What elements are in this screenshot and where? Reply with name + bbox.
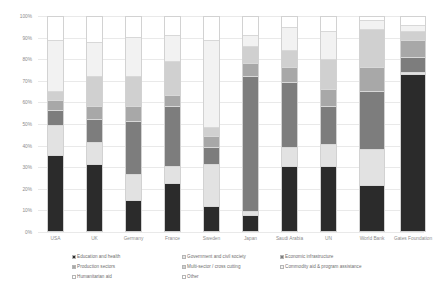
bar-segment[interactable] [48,92,63,101]
bar-segment[interactable] [360,150,384,186]
bar-segment[interactable] [204,128,219,137]
bar-segment[interactable] [360,30,384,69]
y-axis-tick-label: 60% [0,100,32,105]
bar-segment[interactable] [126,175,141,201]
stacked-bar[interactable] [47,16,64,232]
bar-segment[interactable] [48,17,63,41]
stacked-bar[interactable] [203,16,220,232]
stacked-bar[interactable] [320,16,337,232]
legend-item[interactable]: Government and civil society [182,254,246,260]
bar-segment[interactable] [126,107,141,122]
bar-segment[interactable] [243,47,258,64]
bar-segment[interactable] [165,107,180,167]
bar-segment[interactable] [401,17,425,26]
bar-segment[interactable] [282,51,297,68]
legend-item[interactable]: Production sectors [72,264,115,270]
bar-segment[interactable] [87,17,102,43]
bar-segment[interactable] [204,148,219,165]
bar-segment[interactable] [401,58,425,73]
bar-segment[interactable] [165,96,180,107]
stacked-bar[interactable] [281,16,298,232]
bar-segment[interactable] [48,111,63,126]
legend-label: Humanitarian aid [77,274,112,280]
y-axis-tick-label: 50% [0,122,32,127]
bar-segment[interactable] [321,107,336,146]
legend-item[interactable]: Other [182,274,199,280]
legend-label: Commodity aid & program assistance [285,264,361,270]
y-axis-tick-label: 100% [0,14,32,19]
bar-segment[interactable] [243,17,258,36]
bar-slot [164,16,181,232]
stacked-bar[interactable] [164,16,181,232]
bar-segment[interactable] [243,77,258,212]
bar-segment[interactable] [48,101,63,112]
bar-segment[interactable] [321,17,336,32]
bar-segment[interactable] [321,32,336,60]
bar-segment[interactable] [401,32,425,41]
bar-segment[interactable] [204,137,219,148]
bar-segment[interactable] [243,216,258,231]
bar-segment[interactable] [87,143,102,164]
y-axis: 0%10%20%30%40%50%60%70%80%90%100% [0,16,34,232]
legend-item[interactable]: Education and health [72,254,120,260]
bar-segment[interactable] [282,167,297,231]
stacked-bar[interactable] [400,16,426,232]
bar-segment[interactable] [126,201,141,231]
bar-segment[interactable] [360,68,384,92]
bar-segment[interactable] [321,60,336,90]
bar-segment[interactable] [126,38,141,77]
stacked-bar[interactable] [359,16,385,232]
y-axis-tick-label: 90% [0,35,32,40]
y-axis-tick-label: 40% [0,143,32,148]
bar-segment[interactable] [204,165,219,208]
bar-segment[interactable] [126,77,141,107]
bar-segment[interactable] [282,68,297,83]
bar-segment[interactable] [360,21,384,30]
bar-segment[interactable] [87,77,102,107]
bar-segment[interactable] [48,41,63,92]
bar-segment[interactable] [243,36,258,47]
bar-segment[interactable] [87,120,102,144]
bar-segment[interactable] [321,167,336,231]
bar-segment[interactable] [360,186,384,231]
bar-segment[interactable] [87,43,102,77]
legend-swatch-icon [182,255,186,259]
legend-item[interactable]: Humanitarian aid [72,274,112,280]
legend-label: Education and health [77,254,120,260]
bar-segment[interactable] [282,83,297,147]
bar-segment[interactable] [401,75,425,231]
legend-item[interactable]: Economic infrastructure [280,254,333,260]
bar-segment[interactable] [87,165,102,231]
bar-segment[interactable] [282,28,297,52]
bar-segment[interactable] [165,184,180,231]
stacked-bar[interactable] [125,16,142,232]
legend-swatch-icon [72,255,76,259]
bar-segment[interactable] [165,36,180,62]
bar-segment[interactable] [126,17,141,38]
bar-segment[interactable] [243,64,258,77]
legend-item[interactable]: Multi-sector / cross cutting [182,264,240,270]
legend-label: Multi-sector / cross cutting [187,264,240,270]
chart-legend: Education and healthGovernment and civil… [72,254,402,288]
bar-segment[interactable] [204,17,219,41]
bar-segment[interactable] [282,17,297,28]
bar-segment[interactable] [126,122,141,176]
stacked-bar[interactable] [242,16,259,232]
bar-segment[interactable] [165,62,180,96]
bar-segment[interactable] [87,107,102,120]
bar-segment[interactable] [204,207,219,231]
bar-segment[interactable] [48,156,63,231]
y-axis-tick-label: 0% [0,230,32,235]
legend-item[interactable]: Commodity aid & program assistance [280,264,361,270]
bar-segment[interactable] [204,41,219,129]
bar-segment[interactable] [165,17,180,36]
bar-segment[interactable] [165,167,180,184]
bar-segment[interactable] [48,126,63,156]
bar-segment[interactable] [282,148,297,167]
legend-swatch-icon [72,265,76,269]
bar-segment[interactable] [401,41,425,58]
bar-segment[interactable] [321,145,336,166]
stacked-bar[interactable] [86,16,103,232]
bar-segment[interactable] [360,92,384,150]
bar-segment[interactable] [321,90,336,107]
